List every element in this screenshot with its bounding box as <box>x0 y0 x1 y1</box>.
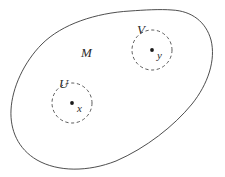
label-neighborhood-u: U <box>59 76 70 91</box>
label-point-y: y <box>156 49 162 61</box>
label-point-x: x <box>76 102 82 114</box>
point-dot-x <box>70 101 74 105</box>
manifold-diagram: M U x V y <box>0 0 225 177</box>
diagram-canvas: M U x V y <box>0 0 225 177</box>
manifold-outline-path <box>11 10 213 170</box>
label-manifold-m: M <box>80 45 93 60</box>
point-dot-y <box>150 48 154 52</box>
label-neighborhood-v: V <box>137 22 147 37</box>
